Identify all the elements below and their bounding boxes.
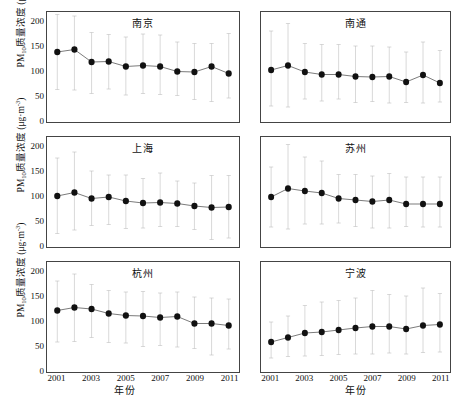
data-point bbox=[71, 189, 77, 196]
data-point bbox=[157, 199, 163, 206]
data-point bbox=[336, 327, 342, 334]
data-point bbox=[386, 197, 392, 204]
y-tick-200: 200 bbox=[31, 141, 45, 151]
x-tickmark-minor bbox=[356, 122, 357, 123]
x-tickmark bbox=[440, 247, 441, 248]
data-point bbox=[140, 200, 146, 207]
y-tickmark-minor bbox=[46, 85, 47, 86]
data-point bbox=[123, 198, 129, 205]
x-axis-titles: 年份 年份 bbox=[0, 374, 459, 404]
x-tickmark-minor bbox=[389, 247, 390, 248]
data-point bbox=[174, 200, 180, 207]
x-tickmark bbox=[126, 247, 127, 248]
x-axis-title-left: 年份 bbox=[0, 382, 250, 397]
x-tickmark bbox=[92, 247, 93, 248]
y-tickmark bbox=[46, 272, 47, 273]
y-tickmark bbox=[260, 322, 261, 323]
y-tick-0: 0 bbox=[40, 241, 45, 251]
data-point bbox=[208, 204, 214, 211]
data-point bbox=[319, 71, 325, 78]
data-point bbox=[208, 320, 214, 327]
data-point bbox=[319, 329, 325, 336]
data-point bbox=[352, 73, 358, 80]
data-point bbox=[88, 306, 94, 313]
y-tickmark bbox=[260, 97, 261, 98]
data-point bbox=[123, 63, 129, 70]
x-tickmark-minor bbox=[288, 247, 289, 248]
panel-cell-hangzhou: PM10质量浓度 (μg·m-3) 050100150200 杭州 200120… bbox=[0, 253, 250, 378]
y-tick-50: 50 bbox=[35, 91, 44, 101]
y-tickmark bbox=[260, 272, 261, 273]
data-point bbox=[157, 314, 163, 321]
data-point bbox=[403, 201, 409, 208]
data-point bbox=[71, 304, 77, 311]
y-tickmark bbox=[260, 347, 261, 348]
x-tickmark bbox=[271, 122, 272, 123]
data-point bbox=[268, 67, 274, 74]
x-tickmark-minor bbox=[389, 122, 390, 123]
plot-area-nantong: 南通 bbox=[260, 11, 451, 123]
x-tickmark bbox=[372, 122, 373, 123]
x-tickmark bbox=[92, 122, 93, 123]
panel-row-2: PM10质量浓度 (μg·m-3) 050100150200 杭州 200120… bbox=[0, 253, 459, 378]
y-tick-50: 50 bbox=[35, 341, 44, 351]
y-tick-150: 150 bbox=[31, 166, 45, 176]
x-tickmark-minor bbox=[423, 247, 424, 248]
y-tickmark bbox=[46, 97, 47, 98]
x-tickmark bbox=[126, 122, 127, 123]
x-tickmark bbox=[194, 122, 195, 123]
data-point bbox=[208, 63, 214, 70]
data-point bbox=[285, 62, 291, 69]
data-point bbox=[106, 194, 112, 201]
y-tick-0: 0 bbox=[40, 116, 45, 126]
data-point bbox=[88, 59, 94, 66]
y-tick-100: 100 bbox=[31, 66, 45, 76]
x-tickmark-minor bbox=[74, 247, 75, 248]
data-point bbox=[302, 69, 308, 76]
y-tick-150: 150 bbox=[31, 41, 45, 51]
y-tickmark-minor bbox=[46, 335, 47, 336]
series-hangzhou bbox=[47, 262, 239, 372]
series-shanghai bbox=[47, 137, 239, 247]
x-tickmark-minor bbox=[74, 122, 75, 123]
y-tickmark-minor bbox=[46, 210, 47, 211]
data-point bbox=[140, 62, 146, 69]
data-point bbox=[369, 74, 375, 81]
x-tickmark bbox=[229, 122, 230, 123]
data-point bbox=[174, 68, 180, 75]
data-point bbox=[437, 321, 443, 328]
x-tickmark-minor bbox=[322, 122, 323, 123]
data-point bbox=[437, 80, 443, 87]
y-tickmark bbox=[46, 247, 47, 248]
plot-area-shanghai: 上海 bbox=[46, 136, 240, 248]
y-tickmark bbox=[46, 72, 47, 73]
data-point bbox=[336, 71, 342, 78]
y-tickmark bbox=[260, 122, 261, 123]
y-tickmark-minor bbox=[46, 60, 47, 61]
data-point bbox=[369, 198, 375, 205]
data-point bbox=[302, 188, 308, 195]
data-point bbox=[54, 49, 60, 56]
x-tickmark-minor bbox=[143, 247, 144, 248]
y-tickmark-minor bbox=[46, 285, 47, 286]
y-tickmark-minor bbox=[46, 110, 47, 111]
data-point bbox=[352, 325, 358, 332]
data-point bbox=[106, 310, 112, 317]
x-tickmark bbox=[57, 247, 58, 248]
data-point bbox=[191, 69, 197, 76]
y-tickmark-minor bbox=[46, 235, 47, 236]
data-point bbox=[226, 70, 232, 77]
data-point bbox=[420, 72, 426, 79]
data-point bbox=[319, 190, 325, 197]
y-tick-200: 200 bbox=[31, 266, 45, 276]
data-point bbox=[420, 322, 426, 329]
y-tick-200: 200 bbox=[31, 16, 45, 26]
data-point bbox=[140, 313, 146, 320]
series-nanjing bbox=[47, 12, 239, 122]
x-tickmark-minor bbox=[322, 247, 323, 248]
x-tickmark-minor bbox=[109, 247, 110, 248]
x-tickmark bbox=[194, 247, 195, 248]
data-point bbox=[285, 185, 291, 192]
x-tickmark-minor bbox=[109, 122, 110, 123]
y-tickmark bbox=[46, 297, 47, 298]
